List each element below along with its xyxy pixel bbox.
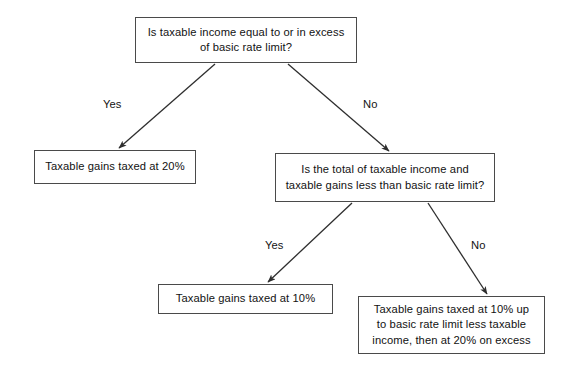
node-label: Taxable gains taxed at 10% up to basic r… <box>372 302 530 348</box>
decision-node-total-income-and-gains-vs-basic-rate-limit[interactable]: Is the total of taxable income and taxab… <box>275 153 495 202</box>
node-label: Taxable gains taxed at 20% <box>45 159 184 174</box>
edge-label-q1-no: No <box>363 98 378 111</box>
decision-node-taxable-income-vs-basic-rate-limit[interactable]: Is taxable income equal to or in excess … <box>135 17 357 63</box>
node-label: Is the total of taxable income and taxab… <box>286 162 485 192</box>
connector-q1-yes <box>119 64 215 148</box>
node-label: Taxable gains taxed at 10% <box>176 291 315 306</box>
flowchart-canvas: Is taxable income equal to or in excess … <box>0 0 572 377</box>
edge-label-q1-yes: Yes <box>103 98 122 111</box>
outcome-node-gains-taxed-at-10[interactable]: Taxable gains taxed at 10% <box>158 284 333 314</box>
outcome-node-gains-taxed-at-20[interactable]: Taxable gains taxed at 20% <box>34 150 196 184</box>
outcome-node-gains-taxed-at-10-then-20-on-excess[interactable]: Taxable gains taxed at 10% up to basic r… <box>358 296 545 354</box>
edge-label-q2-no: No <box>471 239 486 252</box>
edge-label-q2-yes: Yes <box>265 239 284 252</box>
node-label: Is taxable income equal to or in excess … <box>148 25 345 55</box>
